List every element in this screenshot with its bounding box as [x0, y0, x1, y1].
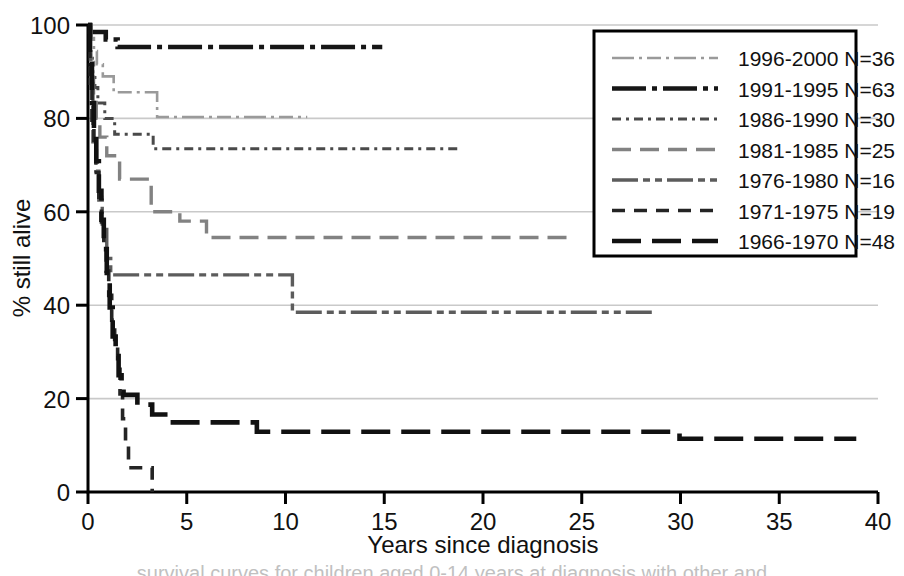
y-tick-label: 100: [30, 12, 70, 39]
x-tick-label: 10: [272, 508, 299, 535]
legend-label-1996-2000: 1996-2000 N=36: [738, 47, 895, 70]
curve-1976-1980: [88, 25, 655, 312]
y-tick-marks: [76, 25, 88, 492]
x-tick-label: 5: [180, 508, 193, 535]
y-tick-label: 80: [43, 105, 70, 132]
x-tick-label: 35: [766, 508, 793, 535]
curve-1971-1975: [88, 25, 152, 492]
y-tick-label: 40: [43, 292, 70, 319]
legend: 1996-2000 N=361991-1995 N=631986-1990 N=…: [594, 31, 895, 256]
x-tick-label: 0: [81, 508, 94, 535]
y-axis-title: % still alive: [8, 199, 35, 318]
curve-1991-1995: [88, 25, 382, 47]
legend-label-1991-1995: 1991-1995 N=63: [738, 78, 895, 101]
legend-label-1976-1980: 1976-1980 N=16: [738, 169, 895, 192]
y-tick-label: 0: [57, 479, 70, 506]
survival-chart: 020406080100 0510152025303540 % still al…: [0, 0, 904, 576]
y-tick-label: 60: [43, 199, 70, 226]
curve-1996-2000: [88, 25, 307, 117]
curve-1981-1985: [88, 25, 570, 237]
x-tick-marks: [88, 492, 878, 504]
legend-label-1986-1990: 1986-1990 N=30: [738, 108, 895, 131]
legend-label-1971-1975: 1971-1975 N=19: [738, 200, 895, 223]
km-survival-figure: 020406080100 0510152025303540 % still al…: [0, 0, 904, 576]
x-axis-title: Years since diagnosis: [367, 531, 598, 558]
legend-label-1981-1985: 1981-1985 N=25: [738, 139, 895, 162]
x-tick-label: 30: [667, 508, 694, 535]
curve-1986-1990: [88, 25, 461, 149]
x-tick-label: 40: [865, 508, 892, 535]
figure-caption: survival curves for children aged 0-14 y…: [0, 560, 904, 576]
y-tick-labels: 020406080100: [30, 12, 70, 506]
legend-label-1966-1970: 1966-1970 N=48: [738, 230, 895, 253]
y-tick-label: 20: [43, 386, 70, 413]
